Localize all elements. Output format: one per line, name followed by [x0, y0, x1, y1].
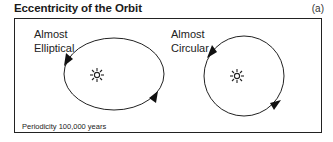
periodicity-note: Periodicity 100,000 years	[22, 122, 106, 131]
label-line: Circular	[171, 41, 209, 55]
label-almost-elliptical: Almost Elliptical	[34, 27, 74, 55]
sun-icon	[230, 69, 244, 83]
orbit-arrow-icon	[270, 100, 281, 110]
sun-icon	[90, 68, 104, 82]
elliptical-orbit	[64, 38, 164, 110]
label-line: Elliptical	[34, 41, 74, 55]
orbit-arrow-icon	[149, 91, 158, 103]
label-line: Almost	[34, 27, 74, 41]
label-almost-circular: Almost Circular	[171, 27, 209, 55]
orbit-diagram	[0, 0, 333, 142]
label-line: Almost	[171, 27, 209, 41]
